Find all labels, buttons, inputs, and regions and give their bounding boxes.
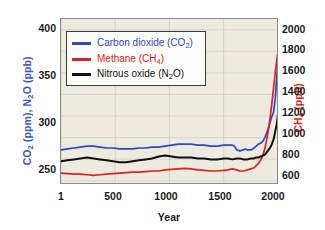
y-right-tick-2000: 2000 xyxy=(282,23,322,35)
y-left-tick-400: 400 xyxy=(20,22,56,34)
legend-label-n2o: Nitrous oxide (N2O) xyxy=(97,69,184,80)
legend-label-co2: Carbon dioxide (CO2) xyxy=(97,38,193,49)
legend: Carbon dioxide (CO2) Methane (CH4) Nitro… xyxy=(66,31,206,86)
x-tick-2000: 2000 xyxy=(251,190,295,202)
legend-item-ch4: Methane (CH4) xyxy=(72,52,205,68)
legend-label-ch4: Methane (CH4) xyxy=(97,54,164,65)
y-left-tick-250: 250 xyxy=(20,163,56,175)
y-right-tick-1000: 1000 xyxy=(282,127,322,139)
legend-item-n2o: Nitrous oxide (N2O) xyxy=(72,67,205,83)
chart-figure: CO2 (ppm), N2O (ppb) CH4 (ppb) Year 400 … xyxy=(0,0,325,230)
x-tick-1000: 1000 xyxy=(144,190,188,202)
y-left-tick-350: 350 xyxy=(20,69,56,81)
y-right-tick-600: 600 xyxy=(282,169,322,181)
y-right-tick-1600: 1600 xyxy=(282,64,322,76)
legend-swatch-co2 xyxy=(72,42,91,45)
x-tick-500: 500 xyxy=(91,190,135,202)
y-right-tick-1400: 1400 xyxy=(282,85,322,97)
y-right-tick-1800: 1800 xyxy=(282,43,322,55)
x-tick-1500: 1500 xyxy=(198,190,242,202)
x-axis-label: Year xyxy=(60,211,278,223)
legend-item-co2: Carbon dioxide (CO2) xyxy=(72,36,205,52)
y-right-tick-800: 800 xyxy=(282,148,322,160)
x-tick-1: 1 xyxy=(39,190,83,202)
legend-swatch-n2o xyxy=(72,73,91,76)
y-right-tick-1200: 1200 xyxy=(282,106,322,118)
y-left-tick-300: 300 xyxy=(20,116,56,128)
legend-swatch-ch4 xyxy=(72,58,91,61)
